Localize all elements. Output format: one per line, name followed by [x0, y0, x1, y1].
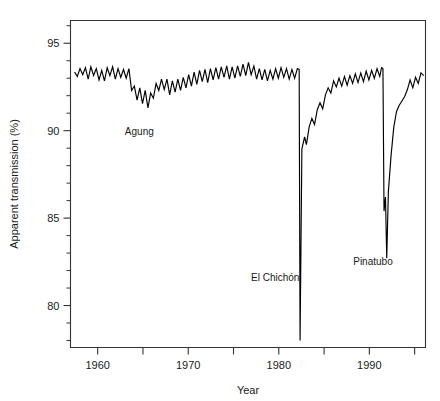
eruption-label: Pinatubo [353, 256, 393, 267]
x-tick-label: 1970 [176, 359, 200, 371]
eruption-label: El Chichón [251, 272, 299, 283]
y-tick-label: 90 [47, 125, 59, 137]
y-tick-label: 85 [47, 212, 59, 224]
x-axis-tick-labels: 1960197019801990 [85, 359, 381, 371]
x-tick-label: 1980 [267, 359, 291, 371]
y-axis-tick-labels: 80859095 [47, 37, 59, 311]
apparent-transmission-line-chart: 80859095 1960197019801990 AgungEl Chichó… [0, 0, 440, 401]
y-axis-title: Apparent transmission (%) [8, 119, 20, 249]
x-axis-ticks [98, 348, 415, 355]
y-tick-label: 80 [47, 300, 59, 312]
x-axis-title: Year [237, 384, 260, 396]
data-series-group [75, 62, 424, 340]
y-tick-label: 95 [47, 37, 59, 49]
eruption-label: Agung [125, 126, 154, 137]
eruption-annotations: AgungEl ChichónPinatubo [125, 126, 393, 283]
x-tick-label: 1960 [85, 359, 109, 371]
y-axis-ticks [64, 26, 71, 341]
data-line [75, 62, 424, 340]
chart-figure: 80859095 1960197019801990 AgungEl Chichó… [0, 0, 440, 401]
x-tick-label: 1990 [357, 359, 381, 371]
